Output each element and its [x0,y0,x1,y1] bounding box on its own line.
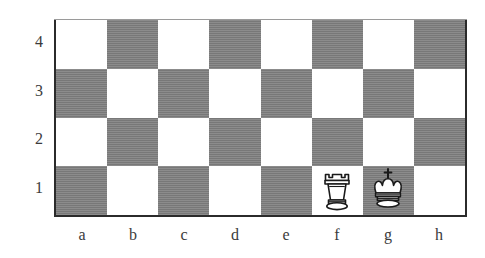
board-square-d2[interactable] [209,118,260,167]
board-square-d4[interactable] [209,20,260,69]
board-square-b2[interactable] [107,118,158,167]
board-square-c4[interactable] [158,20,209,69]
board-square-h4[interactable] [414,20,465,69]
white-king-icon [368,166,408,212]
board-border-right [465,20,467,216]
file-label-b: b [118,226,148,244]
board-square-a3[interactable] [56,69,107,118]
board-square-a4[interactable] [56,20,107,69]
chess-diagram: 4 3 2 1 a b c d e f g h [0,0,485,258]
board-border-top [54,19,467,20]
board-square-f3[interactable] [312,69,363,118]
board-square-e1[interactable] [261,166,312,215]
board-square-h2[interactable] [414,118,465,167]
file-label-c: c [169,226,199,244]
board-border-bottom [54,215,467,217]
file-label-d: d [220,226,250,244]
piece-white-rook-f1[interactable] [317,168,357,214]
piece-white-king-g1[interactable] [368,166,408,212]
board-square-b3[interactable] [107,69,158,118]
file-label-a: a [67,226,97,244]
rank-label-1: 1 [28,179,50,197]
board-square-g4[interactable] [363,20,414,69]
board-square-a1[interactable] [56,166,107,215]
board-square-b1[interactable] [107,166,158,215]
board-square-h1[interactable] [414,166,465,215]
board-square-e3[interactable] [261,69,312,118]
board-square-b4[interactable] [107,20,158,69]
board-square-f2[interactable] [312,118,363,167]
board-square-g3[interactable] [363,69,414,118]
board-square-g2[interactable] [363,118,414,167]
board-square-f4[interactable] [312,20,363,69]
board-square-c3[interactable] [158,69,209,118]
chess-board[interactable] [56,20,465,215]
file-label-h: h [424,226,454,244]
white-rook-icon [317,168,357,214]
file-label-e: e [271,226,301,244]
board-square-e2[interactable] [261,118,312,167]
file-label-g: g [373,226,403,244]
board-square-c2[interactable] [158,118,209,167]
file-label-f: f [322,226,352,244]
board-square-a2[interactable] [56,118,107,167]
rank-label-4: 4 [28,33,50,51]
board-square-e4[interactable] [261,20,312,69]
board-square-d1[interactable] [209,166,260,215]
board-square-h3[interactable] [414,69,465,118]
rank-label-3: 3 [28,82,50,100]
board-border-left [54,20,56,216]
rank-label-2: 2 [28,130,50,148]
board-square-d3[interactable] [209,69,260,118]
board-square-c1[interactable] [158,166,209,215]
